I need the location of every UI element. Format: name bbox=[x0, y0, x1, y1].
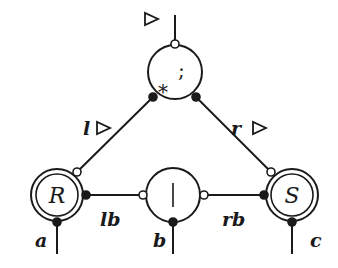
label-rb: rb bbox=[222, 208, 245, 230]
node-right: S bbox=[266, 169, 318, 221]
port-middle-bottom-filled bbox=[169, 218, 177, 226]
label-c: c bbox=[310, 229, 322, 251]
node-right-symbol: S bbox=[284, 183, 299, 208]
port-right-left-filled bbox=[260, 191, 268, 199]
label-b: b bbox=[153, 229, 166, 251]
triangle-l-icon bbox=[97, 122, 110, 134]
triangle-top-icon bbox=[145, 13, 158, 25]
port-middle-left-open bbox=[139, 191, 147, 199]
port-middle-right-open bbox=[200, 191, 208, 199]
port-top-right-filled bbox=[192, 93, 200, 101]
node-left-symbol: R bbox=[48, 183, 66, 208]
node-top-symbol: ; bbox=[178, 58, 185, 82]
node-top-marker: * bbox=[158, 80, 168, 104]
port-left-right-filled bbox=[82, 191, 90, 199]
port-top-open bbox=[171, 40, 179, 48]
node-left: R bbox=[31, 169, 83, 221]
label-l: l bbox=[83, 117, 90, 139]
port-left-top-open bbox=[73, 168, 81, 176]
port-right-top-open bbox=[267, 168, 275, 176]
port-left-bottom-filled bbox=[53, 218, 61, 226]
port-right-bottom-filled bbox=[288, 218, 296, 226]
node-middle bbox=[146, 168, 200, 222]
process-network-diagram: ; * R S l r lb rb bbox=[0, 0, 338, 268]
triangle-r-icon bbox=[253, 122, 266, 134]
port-top-left-filled bbox=[149, 93, 157, 101]
label-a: a bbox=[35, 229, 47, 251]
label-lb: lb bbox=[100, 208, 121, 230]
label-r: r bbox=[231, 117, 243, 139]
